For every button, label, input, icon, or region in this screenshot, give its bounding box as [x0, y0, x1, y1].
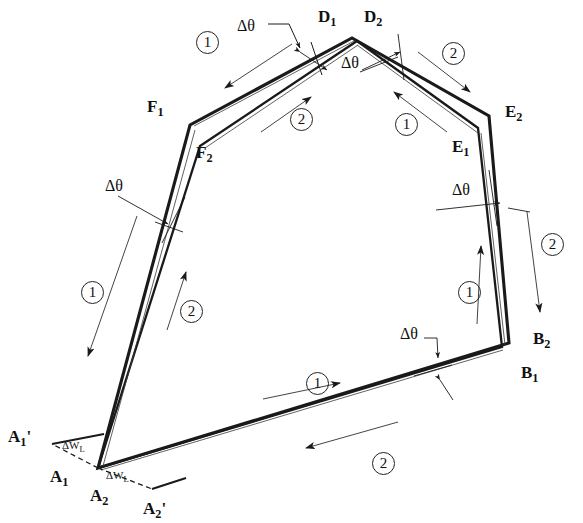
vertex-label-subscript: 2 — [376, 15, 382, 29]
pass-marker-upper-right: 1 — [395, 113, 418, 136]
line-drawing-svg — [0, 0, 583, 523]
vertex-label-prime: ' — [26, 427, 31, 446]
vertex-label-e1: E1 — [452, 138, 469, 159]
pass-marker-left-outer: 1 — [81, 281, 104, 304]
vertex-label-base: D — [364, 7, 376, 26]
pass-marker-right-inner: 1 — [458, 281, 481, 304]
pass-marker-left-inner: 2 — [180, 300, 203, 323]
vertex-label-base: F — [147, 97, 157, 116]
vertex-label-subscript: 1 — [62, 475, 68, 489]
vertex-label-subscript: 1 — [532, 371, 538, 385]
vertex-label-a2p: A2' — [143, 500, 166, 521]
arrow-pass2-left — [167, 272, 186, 330]
arrow-pass2-right — [527, 212, 540, 312]
arrow-pass2-bottom — [306, 422, 398, 448]
offset-line-a2-prime — [152, 478, 186, 489]
vertex-label-b1: B1 — [521, 364, 538, 385]
vertex-label-subscript: 2 — [516, 110, 522, 124]
dtheta-top-right: Δθ — [341, 55, 359, 71]
dwl-lower: ΔWL — [106, 470, 129, 484]
vertex-label-f2: F2 — [196, 144, 213, 165]
pass-marker-upper-mid: 2 — [290, 108, 313, 131]
dwl-upper: ΔWL — [62, 440, 85, 454]
vertex-label-subscript: 1 — [157, 105, 163, 119]
vertex-label-subscript: 1 — [463, 145, 469, 159]
vertex-label-base: E — [452, 137, 463, 156]
width-label-subscript: L — [123, 474, 128, 484]
diagram-canvas: D1D2E2E1F1F2B2B1A1'A1A2A2' ΔθΔθΔθΔθΔθ ΔW… — [0, 0, 583, 523]
pass-marker-top-left: 1 — [196, 31, 219, 54]
vertex-label-base: D — [318, 7, 330, 26]
vertex-label-base: B — [521, 363, 532, 382]
pass-marker-top-right: 2 — [442, 42, 465, 65]
vertex-label-base: A — [143, 499, 155, 518]
pass-marker-right-outer: 2 — [541, 233, 564, 256]
width-label-base: ΔW — [106, 469, 123, 481]
vertex-label-base: E — [505, 102, 516, 121]
vertex-label-a1p: A1' — [8, 428, 31, 449]
vertex-label-base: A — [8, 427, 20, 446]
vertex-label-base: A — [90, 486, 102, 505]
vertex-label-a1: A1 — [50, 468, 68, 489]
vertex-label-base: F — [196, 143, 206, 162]
vertex-label-b2: B2 — [533, 330, 550, 351]
dtheta-marker-top-right — [360, 34, 404, 80]
pass-marker-bottom-upper: 1 — [306, 372, 329, 395]
vertex-label-e2: E2 — [505, 103, 522, 124]
vertex-label-prime: ' — [161, 499, 166, 518]
vertex-label-subscript: 1 — [330, 15, 336, 29]
pass-marker-bottom-lower: 2 — [372, 452, 395, 475]
dtheta-right: Δθ — [452, 182, 470, 198]
width-label-base: ΔW — [62, 439, 79, 451]
dtheta-top-left: Δθ — [237, 18, 255, 34]
vertex-label-f1: F1 — [147, 98, 164, 119]
vertex-label-a2: A2 — [90, 487, 108, 508]
vertex-label-subscript: 2 — [102, 494, 108, 508]
dtheta-bottom: Δθ — [400, 326, 418, 342]
vertex-label-subscript: 2 — [206, 151, 212, 165]
arrow-pass1-top-left — [225, 44, 292, 88]
vertex-label-d1: D1 — [318, 8, 336, 29]
dtheta-left: Δθ — [105, 178, 123, 194]
vertex-label-subscript: 2 — [544, 337, 550, 351]
vertex-label-base: A — [50, 467, 62, 486]
vertex-label-d2: D2 — [364, 8, 382, 29]
vertex-label-base: B — [533, 329, 544, 348]
width-label-subscript: L — [79, 444, 84, 454]
